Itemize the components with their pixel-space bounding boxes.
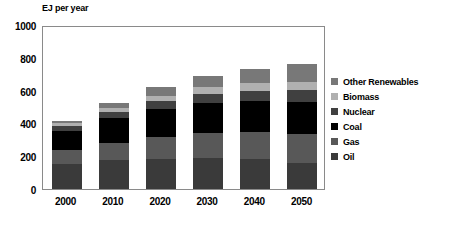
bar-segment[interactable] [146,109,176,138]
bar-segment[interactable] [52,150,82,164]
x-tick-label: 2010 [102,196,123,207]
bar-segment[interactable] [146,87,176,96]
x-tick-label: 2030 [197,196,218,207]
bar-segment[interactable] [240,83,270,90]
x-axis: 200020102020203020402050 [42,196,325,214]
x-tick-label: 2020 [149,196,170,207]
legend-swatch-icon [331,78,338,85]
y-tick-label: 600 [20,86,36,97]
bar-segment[interactable] [99,112,129,118]
chart-title: EJ per year [42,3,88,13]
bar-segment[interactable] [52,164,82,189]
legend-swatch-icon [331,123,338,130]
x-tick-label: 2050 [291,196,312,207]
bar-segment[interactable] [146,96,176,102]
y-tick-label: 0 [31,185,36,196]
bar-segment[interactable] [146,101,176,108]
legend-label: Oil [343,152,354,162]
y-tick-label: 800 [20,53,36,64]
bar-group[interactable] [52,121,82,189]
bar-segment[interactable] [240,159,270,189]
bar-segment[interactable] [146,159,176,189]
bar-segment[interactable] [287,64,317,82]
bar-segment[interactable] [193,76,223,87]
legend-item[interactable]: Other Renewables [331,74,447,89]
chart-legend: Other RenewablesBiomassNuclearCoalGasOil [331,74,447,164]
bar-segment[interactable] [240,101,270,132]
bar-segment[interactable] [99,143,129,160]
legend-swatch-icon [331,138,338,145]
bar-segment[interactable] [193,94,223,103]
bar-segment[interactable] [287,90,317,102]
legend-label: Gas [343,137,359,147]
chart-figure: EJ per year 02004006008001000 2000201020… [0,0,449,228]
bar-segment[interactable] [240,69,270,83]
bar-segment[interactable] [99,118,129,143]
legend-item[interactable]: Biomass [331,89,447,104]
y-tick-label: 200 [20,152,36,163]
plot-area [42,26,325,190]
legend-label: Coal [343,122,362,132]
bar-segment[interactable] [52,126,82,131]
bar-group[interactable] [193,76,223,189]
legend-swatch-icon [331,93,338,100]
bar-segment[interactable] [99,108,129,112]
bar-segment[interactable] [287,163,317,189]
legend-label: Biomass [343,92,379,102]
bar-segment[interactable] [146,137,176,158]
bar-segment[interactable] [240,132,270,159]
y-axis: 02004006008001000 [0,26,38,190]
bar-segment[interactable] [240,91,270,102]
bar-segment[interactable] [52,123,82,126]
bar-segment[interactable] [99,160,129,189]
legend-swatch-icon [331,108,338,115]
x-tick-label: 2000 [55,196,76,207]
y-tick-label: 400 [20,119,36,130]
bars-container [43,27,324,189]
bar-segment[interactable] [193,87,223,94]
bar-segment[interactable] [52,131,82,151]
bar-segment[interactable] [287,102,317,134]
bar-group[interactable] [146,87,176,190]
x-tick-label: 2040 [244,196,265,207]
bar-segment[interactable] [287,82,317,90]
bar-segment[interactable] [287,134,317,163]
legend-label: Nuclear [343,107,375,117]
bar-group[interactable] [99,103,129,189]
legend-label: Other Renewables [343,77,418,87]
y-tick-label: 1000 [15,21,36,32]
legend-item[interactable]: Coal [331,119,447,134]
bar-segment[interactable] [99,103,129,108]
legend-item[interactable]: Nuclear [331,104,447,119]
bar-segment[interactable] [52,121,82,123]
bar-segment[interactable] [193,158,223,189]
bar-segment[interactable] [193,103,223,133]
bar-segment[interactable] [193,133,223,158]
bar-group[interactable] [240,69,270,189]
legend-swatch-icon [331,153,338,160]
legend-item[interactable]: Oil [331,149,447,164]
legend-item[interactable]: Gas [331,134,447,149]
bar-group[interactable] [287,64,317,189]
